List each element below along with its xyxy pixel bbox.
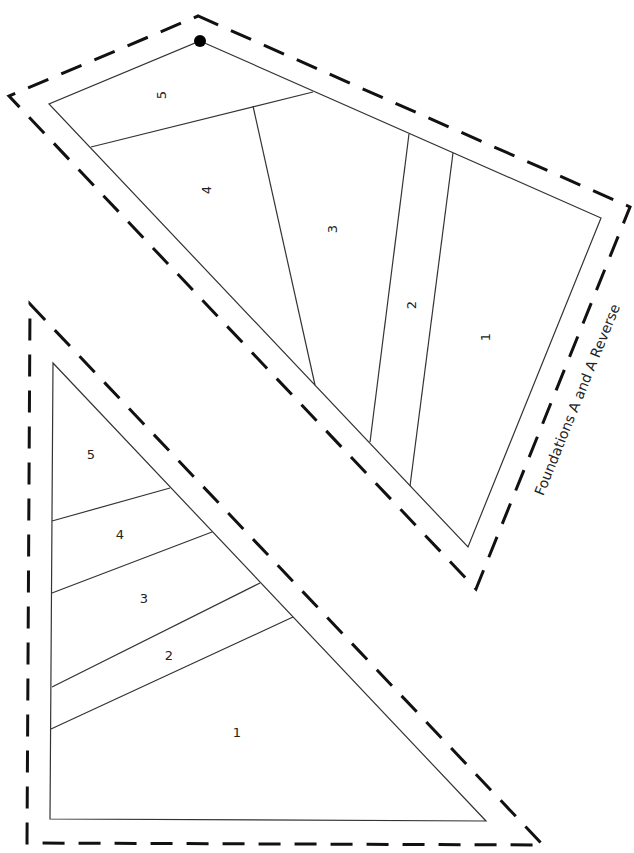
section-label-bottom-1: 1 — [233, 725, 241, 740]
pattern-canvas: 5 4 3 2 1 5 4 3 2 1 Foundations A and A … — [0, 0, 634, 853]
registration-dot-icon — [194, 35, 206, 47]
section-label-bottom-2: 2 — [165, 648, 173, 663]
section-label-bottom-3: 3 — [140, 591, 148, 606]
section-label-top-1: 1 — [478, 333, 493, 341]
section-label-top-4: 4 — [199, 186, 214, 194]
section-label-top-2: 2 — [404, 301, 419, 309]
section-label-top-3: 3 — [325, 225, 340, 233]
section-label-bottom-4: 4 — [116, 527, 124, 542]
section-label-bottom-5: 5 — [87, 447, 95, 462]
section-label-top-5: 5 — [154, 91, 169, 99]
